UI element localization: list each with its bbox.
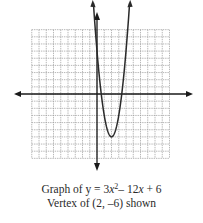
parabola-graph: [0, 0, 203, 175]
graph-caption-vertex: Vertex of (2, –6) shown: [0, 196, 203, 210]
graph-caption-equation: Graph of y = 3x2– 12x + 6: [0, 182, 203, 196]
coordinate-axes: [14, 12, 193, 171]
